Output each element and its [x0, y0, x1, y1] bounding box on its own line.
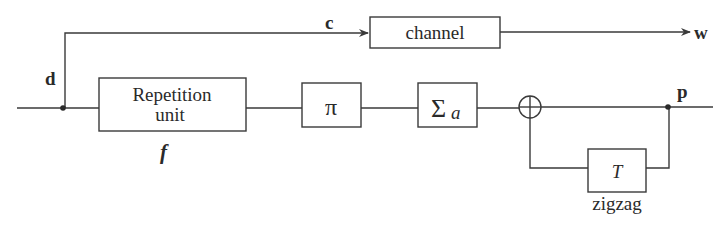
repetition-label-line2: unit	[155, 104, 185, 125]
accumulator-block	[418, 83, 477, 127]
label-c: c	[325, 12, 333, 33]
delay-label: T	[612, 161, 624, 182]
delay-sublabel-zigzag: zigzag	[592, 193, 642, 214]
label-d: d	[45, 68, 56, 89]
interleaver-label: π	[325, 94, 337, 120]
feedback-right-line	[646, 107, 669, 168]
accumulator-sigma-label: Σ	[431, 94, 446, 123]
diagram-canvas: d c w p Repetition unit f π Σ a channel …	[0, 0, 725, 232]
block-diagram: d c w p Repetition unit f π Σ a channel …	[0, 0, 725, 232]
systematic-branch-line	[65, 33, 368, 108]
junction-dot-input	[60, 105, 66, 111]
junction-dot-parity	[665, 104, 671, 110]
label-w: w	[694, 22, 708, 43]
feedback-left-line	[530, 118, 588, 168]
repetition-sublabel-f: f	[160, 140, 169, 164]
accumulator-subscript: a	[451, 102, 461, 123]
channel-label: channel	[405, 22, 464, 43]
label-p: p	[677, 81, 688, 102]
repetition-label-line1: Repetition	[132, 84, 212, 105]
